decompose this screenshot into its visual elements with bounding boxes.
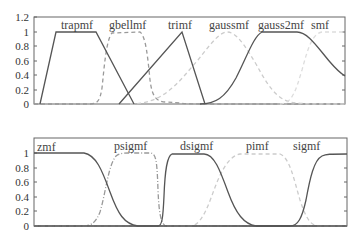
label-trimf: trimf	[168, 18, 192, 32]
curve-sigmf	[256, 154, 347, 226]
ytick-label: 1	[24, 26, 30, 38]
curve-dsigmf	[34, 154, 290, 226]
ytick-label: 0.2	[15, 205, 29, 217]
ytick-label: 0	[24, 98, 30, 110]
curve-pimf	[34, 154, 347, 226]
ytick-label: 1	[24, 147, 30, 159]
label-zmf: zmf	[37, 140, 56, 154]
ytick-label: 0	[24, 220, 30, 232]
curve-gbellmf	[34, 32, 345, 104]
plot-2-ytick-labels: 1 0.8 0.6 0.4 0.2 0	[15, 147, 29, 232]
label-gaussmf: gaussmf	[209, 18, 249, 32]
curve-zmf	[34, 153, 347, 226]
plot-1-ytick-labels: 1.2 1 0.8 0.6 0.4 0.2 0	[15, 11, 29, 110]
membership-functions-figure: 1.2 1 0.8 0.6 0.4 0.2 0 trapmf gbellmf t…	[0, 0, 362, 241]
label-smf: smf	[311, 18, 329, 32]
plot-2: 1 0.8 0.6 0.4 0.2 0 zmf psigmf dsigmf pi…	[15, 138, 347, 232]
ytick-label: 0.8	[15, 162, 29, 174]
ytick-label: 0.4	[15, 69, 29, 81]
plot-1: 1.2 1 0.8 0.6 0.4 0.2 0 trapmf gbellmf t…	[15, 11, 345, 110]
label-gbellmf: gbellmf	[109, 18, 146, 32]
curve-trapmf	[40, 32, 134, 104]
ytick-label: 0.8	[15, 40, 29, 52]
curve-psigmf	[34, 153, 347, 226]
label-dsigmf: dsigmf	[180, 139, 213, 153]
ytick-label: 0.6	[15, 55, 29, 67]
label-trapmf: trapmf	[61, 18, 93, 32]
curve-gaussmf	[130, 32, 345, 104]
label-gauss2mf: gauss2mf	[258, 18, 304, 32]
label-psigmf: psigmf	[114, 139, 147, 153]
label-pimf: pimf	[246, 139, 269, 153]
ytick-label: 0.2	[15, 84, 29, 96]
curve-trimf	[119, 32, 205, 104]
label-sigmf: sigmf	[293, 139, 320, 153]
curve-gauss2mf	[200, 32, 345, 104]
ytick-label: 0.4	[15, 191, 29, 203]
plot-2-yticks	[34, 153, 347, 211]
ytick-label: 1.2	[15, 11, 29, 23]
ytick-label: 0.6	[15, 176, 29, 188]
